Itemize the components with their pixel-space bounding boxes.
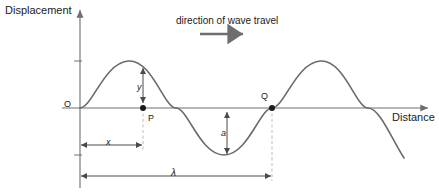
point-q-label: Q (261, 92, 268, 101)
x-axis-label: Distance (392, 112, 435, 123)
wave-curve (80, 61, 404, 158)
point-p-label: P (148, 114, 154, 123)
wave-direction-label: direction of wave travel (176, 16, 278, 26)
wave-graphics (0, 0, 439, 193)
wavelength-lambda-label: λ (171, 168, 176, 178)
wave-diagram: Displacement Distance direction of wave … (0, 0, 439, 193)
displacement-y-label: y (137, 83, 142, 92)
distance-x-label: x (106, 138, 111, 147)
point-p-marker (140, 105, 146, 111)
amplitude-a-label: a (221, 129, 226, 138)
y-axis-label: Displacement (5, 5, 72, 16)
point-q-marker (269, 105, 275, 111)
origin-label: O (64, 100, 71, 109)
